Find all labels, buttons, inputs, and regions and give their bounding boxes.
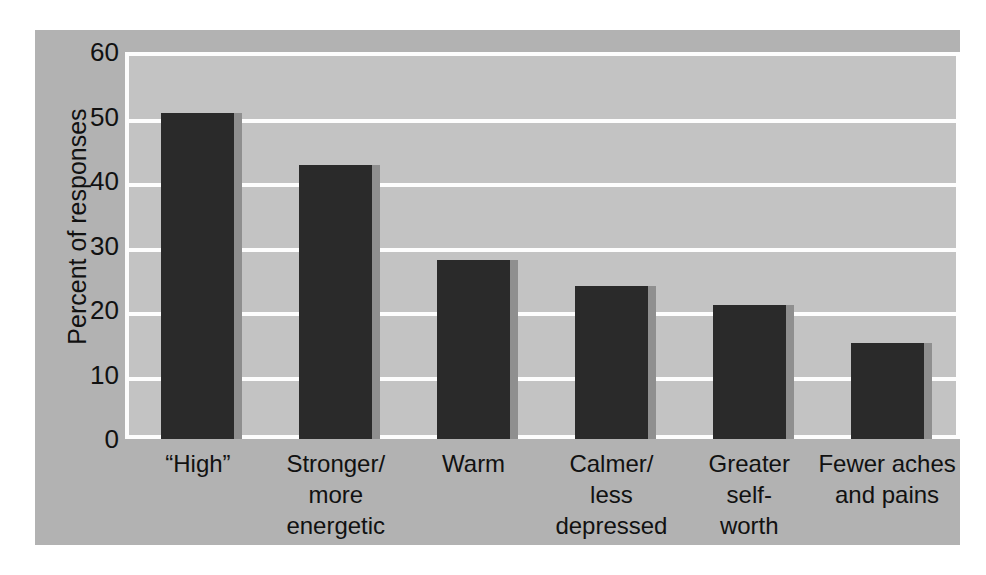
bar [299, 165, 372, 439]
bar-slot [713, 56, 786, 439]
x-tick-label-line: less [537, 479, 687, 510]
x-tick-label: Warm [399, 448, 549, 479]
x-tick-label: “High” [123, 448, 273, 479]
chart-panel: Percent of responses 0102030405060 “High… [35, 30, 960, 545]
x-tick-label-line: “High” [123, 448, 273, 479]
bar [575, 286, 648, 439]
x-axis-tick-labels: “High”Stronger/moreenergeticWarmCalmer/l… [129, 448, 956, 544]
y-tick-label: 60 [59, 37, 119, 68]
y-tick-label: 30 [59, 230, 119, 261]
bar [161, 113, 234, 439]
x-tick-label: Fewer achesand pains [812, 448, 962, 510]
bar-slot [437, 56, 510, 439]
bar [713, 305, 786, 439]
x-tick-label: Calmer/lessdepressed [537, 448, 687, 541]
x-tick-label-line: self- [674, 479, 824, 510]
x-tick-label-line: Fewer aches [812, 448, 962, 479]
bar-slot [575, 56, 648, 439]
y-tick-label: 50 [59, 101, 119, 132]
y-tick-label: 20 [59, 295, 119, 326]
bar [851, 343, 924, 439]
bar-slot [299, 56, 372, 439]
bar-slot [851, 56, 924, 439]
x-tick-label-line: more [261, 479, 411, 510]
x-tick-label: Stronger/moreenergetic [261, 448, 411, 541]
x-tick-label-line: Calmer/ [537, 448, 687, 479]
x-tick-label-line: Warm [399, 448, 549, 479]
x-tick-label-line: depressed [537, 510, 687, 541]
y-axis-tick-labels: 0102030405060 [55, 30, 119, 545]
x-tick-label-line: and pains [812, 479, 962, 510]
y-tick-label: 0 [59, 424, 119, 455]
chart-figure: Percent of responses 0102030405060 “High… [0, 0, 986, 575]
x-tick-label-line: worth [674, 510, 824, 541]
bar-series [129, 56, 956, 439]
bar [437, 260, 510, 439]
y-tick-label: 40 [59, 166, 119, 197]
x-tick-label-line: Greater [674, 448, 824, 479]
x-tick-label: Greaterself-worth [674, 448, 824, 541]
x-tick-label-line: Stronger/ [261, 448, 411, 479]
x-tick-label-line: energetic [261, 510, 411, 541]
y-tick-label: 10 [59, 359, 119, 390]
bar-slot [161, 56, 234, 439]
